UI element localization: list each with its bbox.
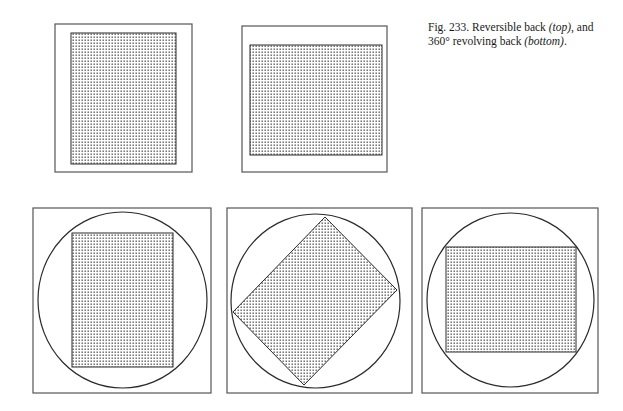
caption-suffix: . [564, 35, 567, 47]
film-area-tilted [233, 217, 397, 385]
revolving-back-portrait-panel [33, 208, 211, 393]
film-area-portrait [72, 233, 173, 367]
film-area-landscape [250, 45, 382, 155]
caption-prefix: Fig. 233. Reversible back [428, 21, 549, 33]
film-area-landscape [446, 247, 576, 352]
reversible-back-portrait-panel [55, 24, 192, 172]
revolving-back-landscape-panel [422, 208, 598, 393]
figure-diagram [0, 0, 623, 411]
revolving-back-tilted-panel [227, 208, 412, 393]
figure-caption: Fig. 233. Reversible back (top), and 360… [428, 20, 618, 48]
caption-top-label: (top) [549, 21, 571, 33]
caption-bottom-label: (bottom) [524, 35, 564, 47]
reversible-back-landscape-panel [242, 26, 387, 172]
film-area-portrait [71, 33, 176, 164]
